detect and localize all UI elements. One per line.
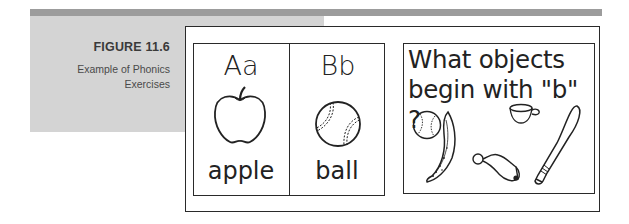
card-letters-b: Bb <box>290 50 386 81</box>
figure-caption: Example of Phonics Exercises <box>40 62 170 92</box>
card-word-apple: apple <box>193 157 289 185</box>
caption-line-1: Example of Phonics <box>40 62 170 77</box>
figure-number: FIGURE 11.6 <box>40 40 170 54</box>
banana-icon <box>424 110 460 185</box>
card-word-ball: ball <box>289 157 385 185</box>
caption-line-2: Exercises <box>40 77 170 92</box>
bell-icon <box>472 145 522 185</box>
question-line-1: What objects <box>408 45 594 75</box>
bat-icon <box>533 103 583 188</box>
card-letters-a: Aa <box>193 50 289 81</box>
baseball-icon <box>313 99 363 149</box>
top-rule-bar <box>30 9 602 16</box>
apple-icon <box>210 86 270 148</box>
